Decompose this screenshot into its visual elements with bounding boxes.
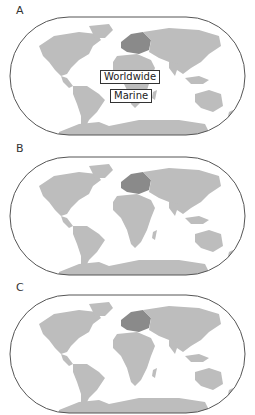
world-map-b <box>9 156 246 276</box>
annotation-worldwide: Worldwide <box>100 70 160 84</box>
world-map-c <box>9 294 246 414</box>
map-graphic <box>9 156 246 276</box>
map-graphic <box>9 294 246 414</box>
annotation-marine: Marine <box>110 89 152 103</box>
panel-label-c: C <box>16 281 24 294</box>
panel-label-b: B <box>16 142 24 155</box>
